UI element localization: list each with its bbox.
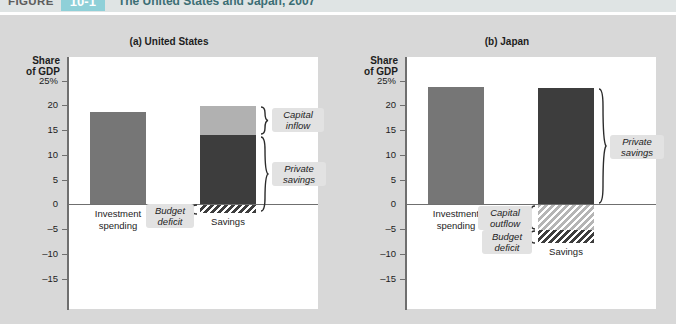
- bar-investment-spending-united-states: [90, 112, 146, 204]
- tick-label-25: 25%: [24, 75, 58, 86]
- y-axis-title-japan: Share of GDP: [344, 55, 398, 77]
- figure-title: The United States and Japan, 2007: [118, 0, 315, 8]
- plot-shell-japan: Share of GDP 25% 20 15 10 5 0 –5 –10 –15: [338, 36, 676, 306]
- tick-label-15: 15: [24, 124, 58, 135]
- tick-mark-5: [62, 180, 67, 181]
- tick-label-5: 5: [362, 174, 396, 185]
- bar-private-savings-japan: [538, 88, 594, 204]
- callout-budget-deficit-japan: Budget deficit: [482, 230, 532, 254]
- figure-number-badge: 10-1: [61, 0, 105, 11]
- tick-mark-neg10: [62, 254, 67, 255]
- tick-mark-25: [62, 81, 67, 82]
- brace-private-savings-japan: [598, 88, 607, 204]
- tick-mark-5: [400, 180, 405, 181]
- figure-header: FIGURE 10-1 The United States and Japan,…: [0, 0, 676, 12]
- y-axis-line-united-states: [67, 57, 69, 310]
- y-axis-title-united-states: Share of GDP: [6, 55, 60, 77]
- tick-label-0: 0: [362, 198, 396, 209]
- bar-investment-spending-japan: [428, 87, 484, 204]
- figure-label: FIGURE: [0, 0, 54, 7]
- tick-label-neg10: –10: [24, 248, 58, 259]
- tick-label-10: 10: [362, 149, 396, 160]
- brace-private-savings-us: [260, 136, 269, 212]
- callout-private-savings-japan: Private savings: [610, 135, 664, 159]
- bar-caption-savings-japan: Savings: [536, 246, 596, 258]
- tick-label-10: 10: [24, 149, 58, 160]
- bar-budget-deficit-japan: [538, 230, 594, 243]
- tick-mark-neg15: [400, 279, 405, 280]
- panel-united-states: (a) United States Share of GDP 25% 20 15…: [0, 36, 338, 324]
- callout-capital-inflow-us: Capital inflow: [272, 108, 324, 132]
- bar-capital-inflow-united-states: [200, 106, 256, 135]
- tick-label-neg15: –15: [24, 273, 58, 284]
- tick-label-20: 20: [24, 99, 58, 110]
- callout-budget-deficit-us: Budget deficit: [146, 204, 194, 228]
- plot-shell-united-states: Share of GDP 25% 20 15 10 5 0 –5 –10: [0, 36, 338, 306]
- tick-label-5: 5: [24, 174, 58, 185]
- tick-mark-20: [400, 105, 405, 106]
- tick-mark-10: [400, 155, 405, 156]
- bar-private-savings-united-states: [200, 135, 256, 204]
- brace-capital-inflow-us: [260, 106, 269, 135]
- callout-capital-outflow-japan: Capital outflow: [478, 206, 532, 230]
- tick-label-25: 25%: [362, 75, 396, 86]
- tick-mark-15: [400, 130, 405, 131]
- tick-label-neg5: –5: [24, 223, 58, 234]
- bar-caption-savings-us: Savings: [198, 216, 258, 228]
- header-divider: [0, 12, 676, 15]
- tick-label-neg5: –5: [362, 223, 396, 234]
- tick-mark-neg10: [400, 254, 405, 255]
- tick-label-neg10: –10: [362, 248, 396, 259]
- bar-budget-deficit-united-states: [200, 205, 256, 213]
- tick-label-15: 15: [362, 124, 396, 135]
- tick-mark-neg5: [62, 229, 67, 230]
- tick-label-20: 20: [362, 99, 396, 110]
- tick-mark-25: [400, 81, 405, 82]
- tick-mark-neg5: [400, 229, 405, 230]
- callout-private-savings-us: Private savings: [272, 162, 326, 186]
- tick-label-neg15: –15: [362, 273, 396, 284]
- bar-capital-outflow-japan: [538, 205, 594, 230]
- panel-japan: (b) Japan Share of GDP 25% 20 15 10 5 0 …: [338, 36, 676, 324]
- tick-mark-neg15: [62, 279, 67, 280]
- tick-label-0: 0: [24, 198, 58, 209]
- tick-mark-10: [62, 155, 67, 156]
- y-axis-line-japan: [405, 57, 407, 310]
- tick-mark-20: [62, 105, 67, 106]
- tick-mark-15: [62, 130, 67, 131]
- figure-root: FIGURE 10-1 The United States and Japan,…: [0, 0, 676, 324]
